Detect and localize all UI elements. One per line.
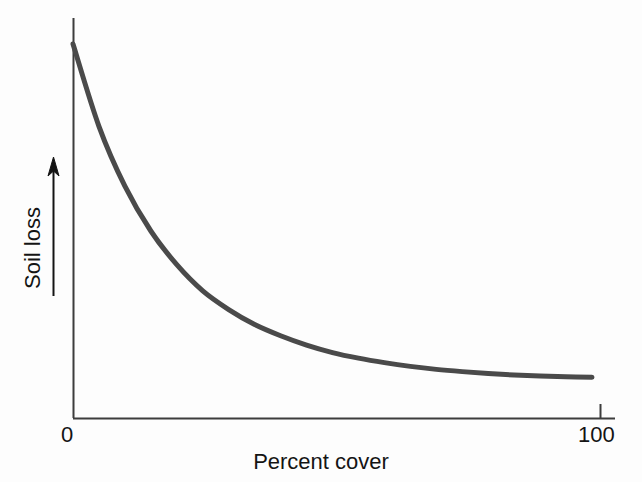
soil-loss-line-chart <box>0 0 642 482</box>
x-axis-title: Percent cover <box>0 450 642 474</box>
y-axis-title: Soil loss <box>21 188 45 308</box>
x-axis-tick-label-100: 100 <box>578 424 615 446</box>
soil-loss-curve <box>73 44 592 377</box>
up-arrow-icon <box>48 157 59 296</box>
x-axis-tick-label-0: 0 <box>61 424 73 446</box>
chart-figure: 0 100 Percent cover Soil loss <box>0 0 642 482</box>
